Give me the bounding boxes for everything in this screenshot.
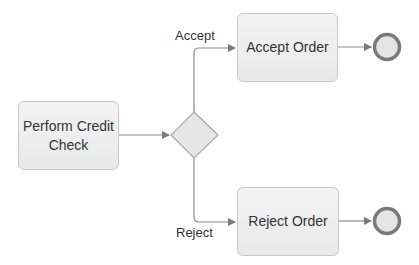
flow-label-accept: Accept (175, 28, 215, 43)
task-label: Accept Order (246, 38, 328, 57)
task-label: Reject Order (248, 212, 327, 231)
exclusive-gateway-icon[interactable] (171, 112, 218, 158)
task-label: Perform Credit Check (19, 117, 118, 155)
flow-gateway-to-accept (194, 48, 235, 112)
end-event-accept-icon[interactable] (375, 35, 400, 60)
flow-gateway-to-reject (194, 158, 235, 222)
end-event-reject-icon[interactable] (375, 209, 400, 234)
flow-label-reject: Reject (176, 225, 213, 240)
task-accept-order[interactable]: Accept Order (237, 13, 338, 82)
task-reject-order[interactable]: Reject Order (237, 187, 339, 256)
task-perform-credit-check[interactable]: Perform Credit Check (18, 101, 119, 170)
